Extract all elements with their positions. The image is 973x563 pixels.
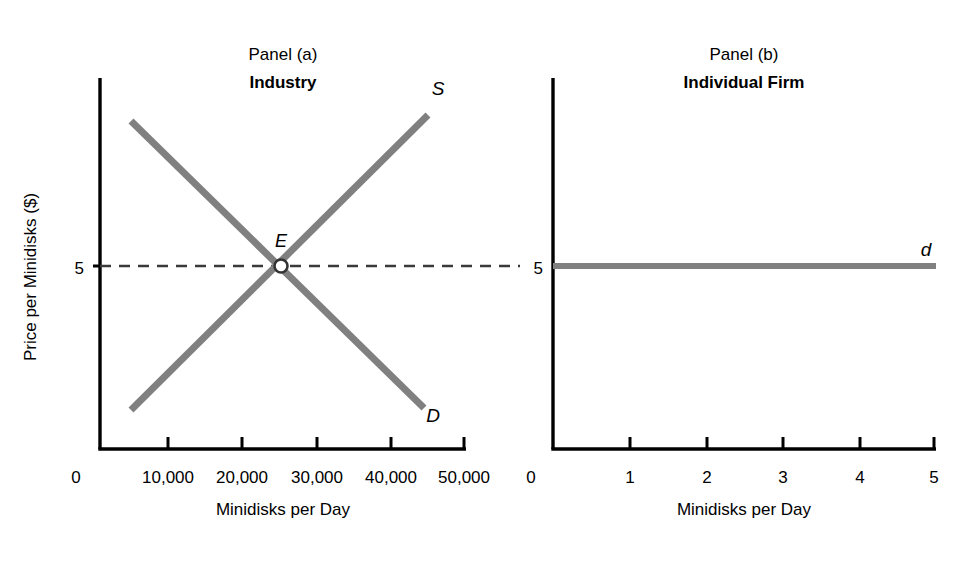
panel-a-x-tick-label-1: 10,000 [142, 468, 194, 487]
panel-b-panel-title: Individual Firm [684, 73, 805, 92]
panel-a-x-tick-label-5: 50,000 [438, 468, 490, 487]
panel-a-panel-title: Industry [249, 73, 317, 92]
equilibrium-point-label: E [275, 231, 288, 251]
panel-a-panel-label: Panel (a) [249, 45, 318, 64]
panel-b-x-tick-label-1: 1 [625, 468, 634, 487]
panel-b-origin-label: 0 [526, 468, 535, 487]
panel-a-x-tick-label-3: 30,000 [291, 468, 343, 487]
firm-demand-curve-label: d [921, 239, 933, 260]
panel-a-y-axis-title: Price per Minidisks ($) [21, 193, 40, 361]
panel-b-x-tick-label-4: 4 [855, 468, 864, 487]
panel-a-x-axis-title: Minidisks per Day [216, 500, 351, 519]
panel-a-y-tick-label-5: 5 [75, 259, 84, 278]
chart-canvas: Panel (a) Industry 5 0 10,000 20,000 30,… [0, 0, 973, 563]
panel-b-x-tick-label-2: 2 [702, 468, 711, 487]
panel-b-x-tick-label-3: 3 [778, 468, 787, 487]
panel-a-x-tick-label-2: 20,000 [216, 468, 268, 487]
supply-curve-label: S [432, 78, 445, 99]
panel-b-panel-label: Panel (b) [710, 45, 779, 64]
panel-a-group: Panel (a) Industry 5 0 10,000 20,000 30,… [21, 45, 520, 519]
economics-figure: Panel (a) Industry 5 0 10,000 20,000 30,… [0, 0, 973, 563]
panel-a-x-tick-label-4: 40,000 [365, 468, 417, 487]
panel-b-x-tick-label-5: 5 [929, 468, 938, 487]
panel-a-origin-label: 0 [71, 468, 80, 487]
panel-b-y-tick-label-5: 5 [534, 259, 543, 278]
panel-b-x-axis-title: Minidisks per Day [677, 500, 812, 519]
demand-curve-label: D [426, 405, 440, 426]
panel-b-group: Panel (b) Individual Firm 5 0 1 2 3 4 5 … [526, 45, 938, 519]
equilibrium-point-marker [275, 260, 288, 273]
